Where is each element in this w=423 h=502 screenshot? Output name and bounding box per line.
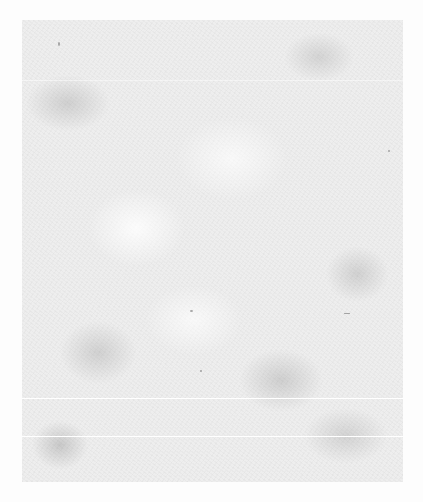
paper-speck <box>200 370 202 372</box>
paper-speck <box>344 313 350 314</box>
paper-speck <box>58 42 60 46</box>
blank-paper-sheet <box>22 20 403 482</box>
page <box>0 0 423 502</box>
fold-line <box>22 80 403 81</box>
fold-line <box>22 398 403 399</box>
fold-line <box>22 436 403 437</box>
paper-speck <box>388 150 390 152</box>
paper-speck <box>190 310 193 312</box>
